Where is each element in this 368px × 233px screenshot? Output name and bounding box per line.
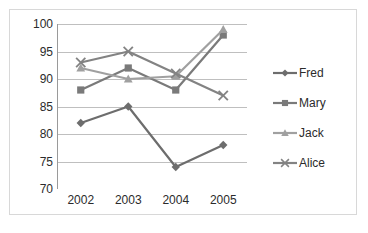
plot-area bbox=[57, 24, 247, 189]
triangle-marker-icon bbox=[272, 127, 298, 139]
x-tick-label: 2005 bbox=[199, 194, 247, 206]
data-point bbox=[219, 141, 227, 149]
cross-marker-icon bbox=[272, 157, 298, 169]
y-tick-label: 90 bbox=[23, 73, 53, 85]
line-chart: 707580859095100 2002200320042005 FredMar… bbox=[0, 0, 368, 233]
data-point bbox=[172, 86, 179, 93]
series-line bbox=[81, 30, 224, 80]
legend-item-fred[interactable]: Fred bbox=[272, 66, 324, 80]
legend-item-alice[interactable]: Alice bbox=[272, 156, 325, 170]
x-tick-label: 2002 bbox=[57, 194, 105, 206]
y-axis: 707580859095100 bbox=[19, 24, 53, 189]
x-tick-label: 2003 bbox=[104, 194, 152, 206]
square-marker-icon bbox=[272, 97, 298, 109]
legend-label: Fred bbox=[299, 67, 324, 79]
y-tick-label: 100 bbox=[23, 18, 53, 30]
series-line bbox=[81, 107, 224, 168]
data-point bbox=[219, 91, 228, 100]
x-tick-label: 2004 bbox=[152, 194, 200, 206]
y-tick-label: 85 bbox=[23, 101, 53, 113]
y-tick-label: 75 bbox=[23, 156, 53, 168]
series-fred bbox=[77, 102, 228, 171]
chart-legend: FredMaryJackAlice bbox=[272, 66, 352, 170]
y-tick-label: 80 bbox=[23, 128, 53, 140]
data-point bbox=[77, 119, 85, 127]
legend-label: Alice bbox=[299, 157, 325, 169]
legend-item-mary[interactable]: Mary bbox=[272, 96, 326, 110]
legend-label: Jack bbox=[299, 127, 324, 139]
x-axis: 2002200320042005 bbox=[57, 194, 247, 214]
series-jack bbox=[76, 25, 227, 82]
legend-label: Mary bbox=[299, 97, 326, 109]
y-tick-label: 70 bbox=[23, 183, 53, 195]
plot-svg bbox=[57, 24, 247, 189]
diamond-marker-icon bbox=[272, 67, 298, 79]
legend-item-jack[interactable]: Jack bbox=[272, 126, 324, 140]
data-point bbox=[125, 64, 132, 71]
data-point bbox=[219, 25, 228, 33]
data-point bbox=[77, 86, 84, 93]
y-tick-label: 95 bbox=[23, 46, 53, 58]
